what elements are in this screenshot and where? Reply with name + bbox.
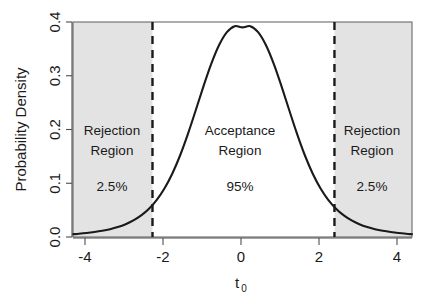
acceptance-percent: 95% bbox=[226, 179, 253, 194]
x-tick-label-0: -4 bbox=[78, 248, 91, 265]
statistics-figure: 0.0 0.1 0.2 0.3 0.4 Probability Density … bbox=[0, 0, 430, 301]
y-tick-label-4: 0.4 bbox=[46, 12, 63, 33]
right-rejection-label-line2: Region bbox=[351, 143, 394, 158]
left-rejection-label-line2: Region bbox=[91, 143, 134, 158]
y-tick-label-1: 0.1 bbox=[46, 173, 63, 194]
x-tick-label-4: 4 bbox=[393, 248, 401, 265]
y-tick-label-2: 0.2 bbox=[46, 119, 63, 140]
left-rejection-percent: 2.5% bbox=[97, 179, 128, 194]
t-distribution-plot: 0.0 0.1 0.2 0.3 0.4 Probability Density … bbox=[0, 0, 430, 301]
x-tick-label-1: -2 bbox=[156, 248, 169, 265]
left-rejection-label-line1: Rejection bbox=[84, 123, 140, 138]
y-tick-label-3: 0.3 bbox=[46, 65, 63, 86]
acceptance-label-line2: Region bbox=[219, 143, 262, 158]
y-tick-label-0: 0.0 bbox=[46, 227, 63, 248]
x-axis-title-subscript: 0 bbox=[241, 283, 247, 294]
right-rejection-percent: 2.5% bbox=[357, 179, 388, 194]
x-tick-label-2: 0 bbox=[237, 248, 245, 265]
x-tick-label-3: 2 bbox=[315, 248, 323, 265]
right-rejection-label-line1: Rejection bbox=[344, 123, 400, 138]
y-axis-title: Probability Density bbox=[12, 67, 29, 192]
acceptance-label-line1: Acceptance bbox=[205, 123, 276, 138]
